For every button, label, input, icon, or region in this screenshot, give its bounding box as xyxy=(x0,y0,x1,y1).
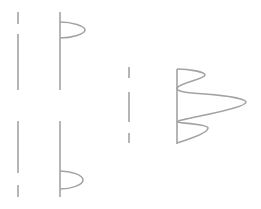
waveform-bump xyxy=(60,171,83,189)
group-top-left xyxy=(18,12,85,90)
group-bottom-left xyxy=(18,121,83,197)
group-right xyxy=(129,67,246,144)
diagram-canvas xyxy=(0,0,261,209)
waveform-bump xyxy=(60,22,85,38)
waveform-multi-bump xyxy=(177,69,246,143)
